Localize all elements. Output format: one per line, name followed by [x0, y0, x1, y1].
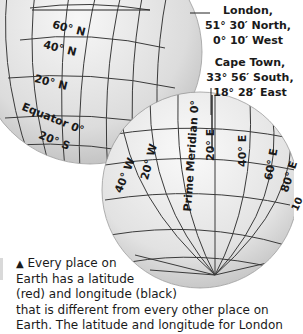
london-longitude: 0° 10′ West — [196, 33, 300, 48]
caption-line-3: (red) and longitude (black) — [16, 287, 283, 303]
london-city: London, — [196, 3, 300, 18]
capetown-latitude: 33° 56′ South, — [204, 70, 296, 85]
london-callout: London, 51° 30′ North, 0° 10′ West — [196, 3, 300, 48]
longitude-label-20e: 20° E — [204, 129, 217, 161]
caption-line-4: that is different from every other place… — [16, 303, 283, 319]
triangle-bullet-icon: ▲ — [16, 258, 24, 269]
london-latitude: 51° 30′ North, — [196, 18, 300, 33]
capetown-longitude: 18° 28′ East — [204, 85, 296, 100]
left-edge-bar — [0, 258, 3, 280]
caption-line-1: ▲ Every place on — [16, 256, 283, 272]
capetown-callout: Cape Town, 33° 56′ South, 18° 28′ East — [204, 55, 296, 100]
capetown-city: Cape Town, — [204, 55, 296, 70]
caption-line-2: Earth has a latitude — [16, 272, 283, 288]
caption-line-5: Earth. The latitude and longitude for Lo… — [16, 318, 283, 334]
figure-caption: ▲ Every place on Earth has a latitude (r… — [16, 256, 283, 334]
longitude-label-40e: 40° E — [236, 135, 249, 167]
